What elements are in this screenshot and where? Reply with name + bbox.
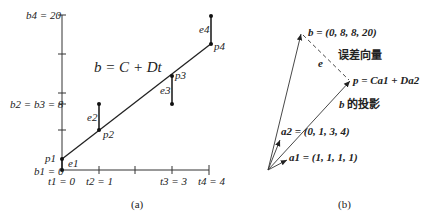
projection-text: 的投影 (347, 98, 380, 111)
y-label-b4: b4 = 20 (26, 10, 61, 21)
x-label-t4: t4 = 4 (198, 176, 225, 187)
e-label: e (318, 58, 323, 69)
p-vector-label: p = Ca1 + Da2 (353, 75, 419, 86)
caption-a: (a) (131, 198, 143, 210)
data-points (60, 14, 213, 172)
projection-label: b 的投影 (339, 99, 380, 110)
error-vector-label: 误差向量 (338, 50, 382, 61)
point-label-p2: p2 (103, 129, 114, 140)
point-label-p1: p1 (45, 153, 56, 164)
x-label-t2: t2 = 1 (86, 176, 113, 187)
x-label-t3: t3 = 3 (160, 176, 187, 187)
error-label-e3: e3 (160, 85, 170, 96)
error-segments (62, 16, 211, 170)
error-label-e1: e1 (68, 158, 78, 169)
point-label-p3: p3 (175, 70, 186, 81)
caption-b: (b) (338, 198, 351, 210)
point-label-p4: p4 (214, 41, 225, 52)
a2-vector-label: a2 = (0, 1, 3, 4) (281, 126, 350, 137)
b-vector-label: b = (0, 8, 8, 20) (308, 27, 377, 38)
y-label-b2-b3: b2 = b3 = 8 (10, 99, 63, 110)
error-label-e2: e2 (87, 112, 97, 123)
error-label-e4: e4 (199, 24, 209, 35)
equation: b = C + Dt (94, 60, 162, 75)
panel-a-axes (58, 15, 209, 175)
x-label-t1: t1 = 0 (48, 176, 75, 187)
b-symbol: b (339, 98, 345, 110)
a1-vector-label: a1 = (1, 1, 1, 1) (289, 152, 358, 163)
